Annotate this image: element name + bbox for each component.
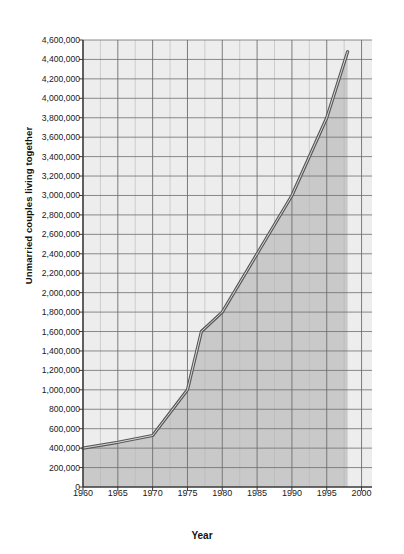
chart-container: Unmarried couples living together 0200,0… — [0, 0, 404, 554]
x-axis-tick-labels: 196019651970197519801985199019952000 — [0, 488, 404, 508]
x-axis-tick-label: 2000 — [342, 488, 382, 498]
x-axis-label: Year — [0, 530, 404, 541]
plot-area — [0, 0, 404, 554]
